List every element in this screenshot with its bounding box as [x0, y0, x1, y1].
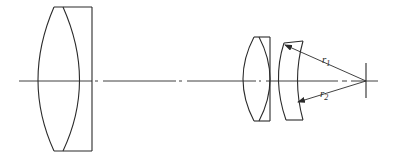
rear-lens-left-surface — [243, 37, 254, 121]
meniscus-lens — [278, 41, 303, 120]
front-lens-cemented-surface — [63, 7, 80, 151]
front-cemented-doublet — [38, 7, 92, 151]
rear-doublet — [243, 37, 270, 121]
label-r2: r2 — [320, 87, 328, 102]
lens-diagram-svg: r1 r2 — [0, 0, 398, 159]
rear-lens-cemented-surface — [259, 37, 270, 121]
front-lens-left-surface — [38, 7, 54, 151]
label-r1: r1 — [322, 53, 330, 68]
radius-r2-arrow — [298, 81, 366, 102]
lens-diagram: r1 r2 — [0, 0, 398, 159]
meniscus-front-surface — [278, 43, 286, 120]
